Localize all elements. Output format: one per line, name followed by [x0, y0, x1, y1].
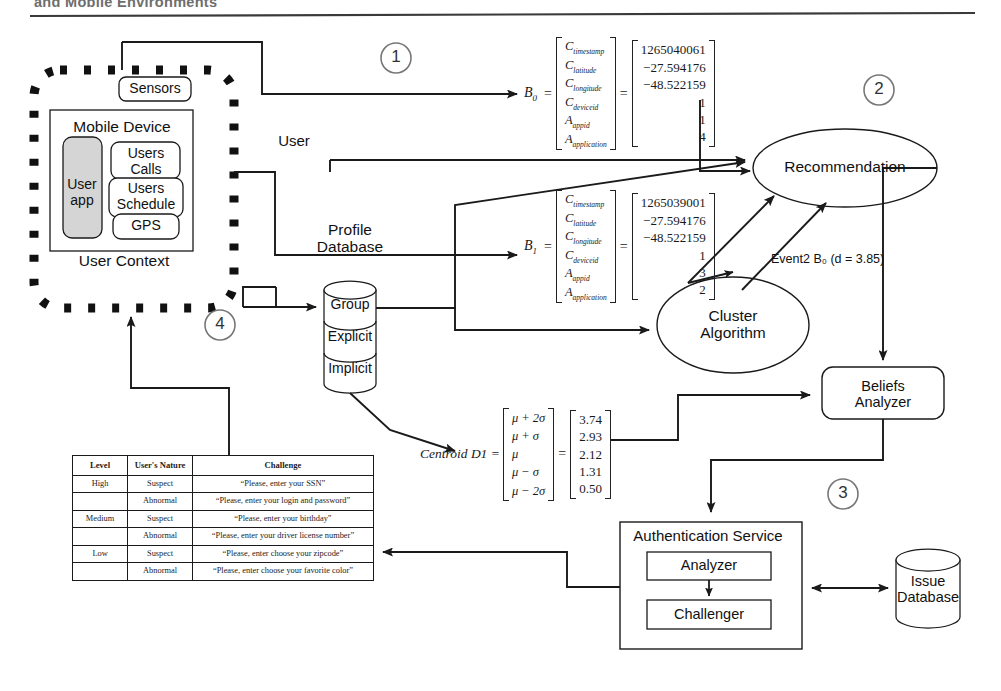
table-row: Medium Suspect “Please, enter your birth… — [73, 510, 374, 528]
analyzer-label: Analyzer — [681, 557, 737, 573]
step-label-2: 2 — [874, 79, 883, 98]
step-label-1: 1 — [391, 47, 400, 66]
equation-b0-value-matrix: 1265040061 −27.594176 −48.522159 1 1 4 — [632, 40, 715, 146]
edge-centroid-to-beliefs — [610, 395, 810, 440]
beliefs-analyzer-label: Beliefs Analyzer — [855, 378, 911, 410]
cell-level — [73, 493, 128, 511]
cell-nature: Abnormal — [128, 493, 193, 511]
cell-challenge: “Please, enter your driver license numbe… — [192, 528, 373, 546]
table-row: Abnormal “Please, enter your driver lice… — [73, 528, 374, 546]
equation-b0-name: B0 — [524, 85, 537, 103]
equation-b0: B0 = Ctimestamp Clatitude Clongitude Cde… — [524, 37, 715, 150]
cell-level: Low — [73, 545, 128, 563]
centroid-symbol-matrix: μ + 2σ μ + σ μ μ − σ μ − 2σ — [503, 408, 554, 501]
table-header-level: Level — [73, 456, 128, 476]
table-row: High Suspect “Please, enter your SSN” — [73, 475, 374, 493]
equation-b1: B1 = Ctimestamp Clatitude Clongitude Cde… — [524, 190, 715, 303]
profile-db-segment-implicit: Implicit — [328, 361, 372, 377]
cell-nature: Suspect — [128, 510, 193, 528]
edge-auth-to-table — [383, 552, 620, 587]
table-row: Abnormal “Please, enter choose your favo… — [73, 563, 374, 581]
user-context-label: User Context — [79, 252, 169, 269]
cell-challenge: “Please, enter choose your zipcode” — [192, 545, 373, 563]
challenger-label: Challenger — [674, 606, 744, 622]
centroid-label: Centroid D1 = — [420, 446, 500, 462]
user-app-label: User app — [67, 177, 97, 208]
issue-database-label: Issue Database — [897, 573, 959, 605]
profile-database-label: Profile Database — [317, 221, 383, 256]
gps-label: GPS — [131, 218, 161, 234]
user-label: User — [278, 133, 310, 150]
users-schedule-label: Users Schedule — [117, 181, 175, 212]
step-label-3: 3 — [838, 483, 847, 502]
equation-b1-symbol-matrix: Ctimestamp Clatitude Clongitude Cdevicei… — [556, 190, 616, 303]
users-calls-label: Users Calls — [128, 146, 165, 177]
diagram-graphics — [0, 0, 1001, 691]
cell-level: High — [73, 475, 128, 493]
table-row: Abnormal “Please, enter your login and p… — [73, 493, 374, 511]
cell-challenge: “Please, enter choose your favorite colo… — [192, 563, 373, 581]
cell-nature: Suspect — [128, 545, 193, 563]
equation-centroid: Centroid D1 = μ + 2σ μ + σ μ μ − σ μ − 2… — [420, 408, 611, 501]
edge-profiledb-to-cluster — [376, 308, 649, 330]
cell-nature: Abnormal — [128, 528, 193, 546]
sensors-label: Sensors — [129, 81, 180, 97]
step-label-4: 4 — [215, 314, 224, 333]
cell-nature: Abnormal — [128, 563, 193, 581]
diagram-canvas: and Mobile Environments — [0, 0, 1001, 691]
profile-db-segment-explicit: Explicit — [328, 329, 372, 345]
centroid-value-matrix: 3.74 2.93 2.12 1.31 0.50 — [570, 410, 611, 499]
cell-challenge: “Please, enter your birthday” — [192, 510, 373, 528]
cell-level — [73, 528, 128, 546]
cell-level: Medium — [73, 510, 128, 528]
cluster-algorithm-label: Cluster Algorithm — [700, 307, 765, 342]
cell-nature: Suspect — [128, 475, 193, 493]
mobile-device-label: Mobile Device — [73, 118, 170, 135]
challenge-table: Level User's Nature Challenge High Suspe… — [72, 455, 374, 581]
recommendation-label: Recommendation — [784, 158, 905, 175]
authentication-service-label: Authentication Service — [633, 528, 782, 545]
table-header-nature: User's Nature — [128, 456, 193, 476]
profile-db-segment-group: Group — [331, 297, 370, 313]
table-header-challenge: Challenge — [192, 456, 373, 476]
table-header-row: Level User's Nature Challenge — [73, 456, 374, 476]
cell-challenge: “Please, enter your login and password” — [192, 493, 373, 511]
table-row: Low Suspect “Please, enter choose your z… — [73, 545, 374, 563]
cell-challenge: “Please, enter your SSN” — [192, 475, 373, 493]
equation-b0-symbol-matrix: Ctimestamp Clatitude Clongitude Cdevicei… — [556, 37, 616, 150]
equation-b1-value-matrix: 1265039001 −27.594176 −48.522159 1 3 2 — [632, 193, 715, 299]
equation-b1-name: B1 — [524, 238, 537, 256]
event2-label: Event2 B₀ (d = 3.85) — [771, 252, 884, 266]
cell-level — [73, 563, 128, 581]
